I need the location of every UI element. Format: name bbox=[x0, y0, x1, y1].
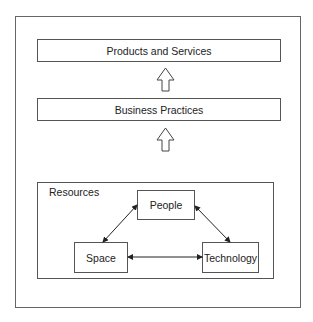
people-technology-connector bbox=[195, 206, 230, 242]
hollow-up-arrow-icon bbox=[157, 128, 174, 151]
people-space-connector bbox=[103, 205, 137, 242]
hollow-up-arrow-icon bbox=[157, 68, 174, 91]
connectors-layer bbox=[0, 0, 313, 322]
